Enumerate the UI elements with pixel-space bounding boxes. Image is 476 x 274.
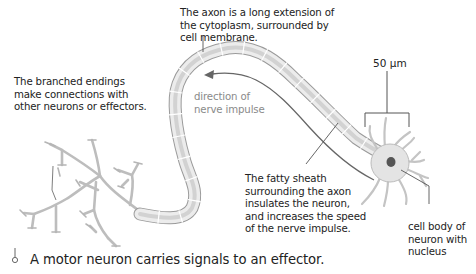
figure-caption: A motor neuron carries signals to an eff… xyxy=(30,252,324,267)
caption-icon xyxy=(12,248,17,263)
sheath-annotation: The fatty sheath surrounding the axon in… xyxy=(245,173,366,236)
axon-annotation: The axon is a long extension of the cyto… xyxy=(180,7,334,45)
terminal-knobs xyxy=(20,140,142,246)
cell-body xyxy=(362,118,428,206)
branched-endings-annotation: The branched endings make connections wi… xyxy=(14,76,147,114)
direction-annotation: direction of nerve impulse xyxy=(194,91,265,116)
branched-endings xyxy=(24,140,142,246)
cell-body-annotation: cell body of neuron with nucleus xyxy=(408,221,467,259)
scale-bar-label: 50 μm xyxy=(373,57,407,69)
nucleus xyxy=(387,157,396,167)
